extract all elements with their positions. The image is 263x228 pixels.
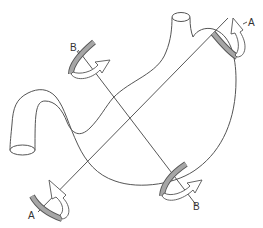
label-a-bottom: A [28,210,35,221]
stomach-lesser-curvature [10,18,236,185]
duodenum-opening [10,145,35,155]
esophagus-opening [172,13,190,22]
stomach-outline [10,13,236,186]
label-a-top: A [248,17,255,28]
label-b-bottom: B [193,201,200,212]
rotation-marker-a-top [213,18,245,57]
rotation-marker-b-top [71,42,110,79]
label-a-top-leader [243,22,247,24]
stomach-rotation-diagram: A A B B [0,0,263,228]
label-b-top: B [70,42,77,53]
